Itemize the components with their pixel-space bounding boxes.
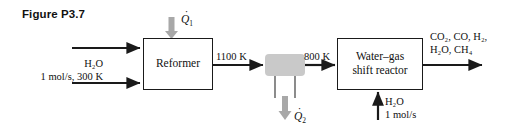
label-wgs-water-composition: H₂O	[385, 96, 404, 109]
label-wgs-water-flowrate: 1 mol/s	[385, 109, 416, 122]
label-heat-duty-q2-subscript: 2	[302, 116, 306, 125]
heat-output-arrow-q2	[279, 96, 292, 120]
label-exchanger-outlet-temperature: 800 K	[304, 51, 330, 64]
label-heat-duty-q1: ˙ Q1	[181, 13, 193, 28]
unit-heat-exchanger[interactable]	[265, 54, 305, 76]
unit-wgs-reactor-label-line2: shift reactor	[350, 64, 409, 78]
label-product-composition-line2: H₂O, CH₄	[430, 44, 472, 57]
label-heat-duty-q2: ˙ Q2	[294, 110, 306, 125]
label-heat-duty-q1-subscript: 1	[189, 19, 193, 28]
heat-input-arrow-q1	[165, 17, 178, 39]
process-flow-diagram: Figure P3.7	[0, 0, 507, 135]
label-reformer-outlet-temperature: 1100 K	[216, 51, 247, 64]
unit-wgs-reactor[interactable]: Water–gas shift reactor	[337, 38, 423, 90]
label-feed-water-conditions: 1 mol/s, 300 K	[10, 71, 103, 84]
unit-reformer[interactable]: Reformer	[143, 38, 213, 90]
unit-reformer-label: Reformer	[154, 57, 202, 71]
label-product-composition-line1: CO₂, CO, H₂,	[430, 31, 487, 44]
label-feed-water-composition: H₂O	[28, 58, 103, 71]
unit-wgs-reactor-label-line1: Water–gas	[350, 50, 409, 64]
